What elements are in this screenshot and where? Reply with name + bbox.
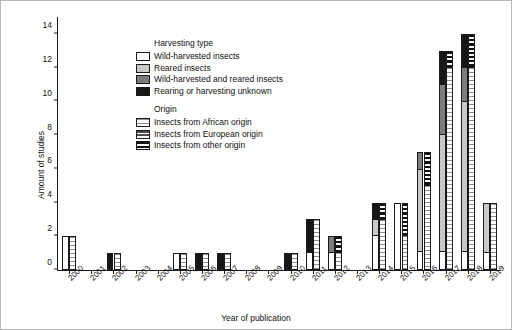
- bar-segment: [462, 102, 467, 253]
- bar-origin: [379, 203, 386, 270]
- bar-origin: [114, 253, 121, 270]
- legend-group-harvesting-type: Harvesting type Wild-harvested insects R…: [136, 39, 283, 97]
- bar-segment: [292, 254, 297, 269]
- legend: Harvesting type Wild-harvested insects R…: [136, 39, 283, 151]
- bar-harvesting-type: [328, 236, 335, 270]
- bar-segment: [70, 237, 75, 269]
- bar-segment: [440, 252, 445, 269]
- legend-label-wild-harvested-and-reared-insects: Wild-harvested and reared insects: [154, 75, 283, 84]
- bar-segment: [373, 220, 378, 236]
- bar-origin: [202, 253, 209, 270]
- bar-harvesting-type: [107, 253, 114, 270]
- bar-segment: [447, 68, 452, 269]
- y-tick-mark: [54, 167, 58, 168]
- bar-segment: [440, 135, 445, 252]
- bar-segment: [285, 254, 290, 269]
- bar-segment: [418, 252, 423, 269]
- y-tick-mark: [54, 100, 58, 101]
- y-tick-label: 14: [43, 21, 58, 30]
- bar-origin: [446, 51, 453, 270]
- bar-segment: [225, 254, 230, 269]
- legend-label-insects-from-african-origin: Insects from African origin: [154, 118, 252, 127]
- x-tick-label: 2013: [355, 264, 373, 282]
- legend-swatch-european-hatch-icon: [136, 130, 150, 139]
- legend-item-wild-harvested-and-reared-insects: Wild-harvested and reared insects: [136, 74, 283, 86]
- y-tick-label: 4: [47, 190, 58, 199]
- legend-label-insects-from-european-origin: Insects from European origin: [154, 130, 263, 139]
- bar-origin: [291, 253, 298, 270]
- legend-label-rearing-or-harvesting-unknown: Rearing or harvesting unknown: [154, 87, 272, 96]
- x-tick-label: 2003: [134, 264, 152, 282]
- bar-segment: [425, 186, 430, 269]
- bar-segment: [307, 220, 312, 252]
- bar-segment: [336, 237, 341, 253]
- y-tick-label: 6: [47, 156, 58, 165]
- y-tick-label: 10: [43, 89, 58, 98]
- plot-area: 02468101214 2000200120022003200420052006…: [57, 17, 501, 271]
- bar-segment: [307, 253, 312, 269]
- legend-item-rearing-or-harvesting-unknown: Rearing or harvesting unknown: [136, 85, 283, 97]
- x-tick-label: 2009: [266, 264, 284, 282]
- legend-item-insects-from-african-origin: Insects from African origin: [136, 117, 283, 129]
- bar-segment: [196, 254, 201, 269]
- bar-segment: [314, 220, 319, 269]
- bar-segment: [469, 68, 474, 269]
- bar-harvesting-type: [195, 253, 202, 270]
- bar-segment: [462, 68, 467, 101]
- bar-segment: [395, 204, 400, 269]
- bar-harvesting-type: [483, 203, 490, 270]
- bar-segment: [447, 52, 452, 69]
- bar-segment: [462, 35, 467, 68]
- legend-item-wild-harvested-insects: Wild-harvested insects: [136, 51, 283, 63]
- bar-harvesting-type: [417, 152, 424, 270]
- bar-origin: [335, 236, 342, 270]
- legend-item-insects-from-other-origin: Insects from other origin: [136, 140, 283, 152]
- bar-segment: [484, 253, 489, 269]
- legend-label-insects-from-other-origin: Insects from other origin: [154, 141, 245, 150]
- bar-origin: [313, 219, 320, 270]
- bar-segment: [440, 52, 445, 85]
- bar-origin: [490, 203, 497, 270]
- y-tick-mark: [54, 32, 58, 33]
- bar-segment: [373, 204, 378, 220]
- bar-segment: [469, 35, 474, 68]
- legend-swatch-black-icon: [136, 87, 150, 96]
- bar-segment: [218, 254, 223, 269]
- y-tick-mark: [54, 134, 58, 135]
- bar-segment: [380, 220, 385, 269]
- y-tick-mark: [54, 201, 58, 202]
- legend-item-reared-insects: Reared insects: [136, 62, 283, 74]
- bar-harvesting-type: [284, 253, 291, 270]
- bar-origin: [224, 253, 231, 270]
- bar-segment: [108, 254, 113, 269]
- y-tick-label: 2: [47, 224, 58, 233]
- bar-segment: [336, 253, 341, 269]
- y-tick-label: 8: [47, 122, 58, 131]
- legend-swatch-dark-gray-icon: [136, 75, 150, 84]
- bar-harvesting-type: [173, 253, 180, 270]
- bar-harvesting-type: [62, 236, 69, 270]
- legend-label-wild-harvested-insects: Wild-harvested insects: [154, 52, 240, 61]
- bar-origin: [468, 34, 475, 270]
- bar-segment: [329, 253, 334, 269]
- y-tick-mark: [54, 235, 58, 236]
- bar-origin: [424, 152, 431, 270]
- bar-segment: [174, 254, 179, 269]
- bar-segment: [484, 204, 489, 253]
- bar-harvesting-type: [372, 203, 379, 270]
- figure: Amount of studies 02468101214 2000200120…: [0, 0, 512, 330]
- bar-harvesting-type: [306, 219, 313, 270]
- bar-harvesting-type: [461, 34, 468, 270]
- y-tick-mark: [54, 66, 58, 67]
- y-tick-mark: [54, 269, 58, 270]
- legend-group-origin: Origin Insects from African origin Insec…: [136, 105, 283, 151]
- bar-segment: [418, 170, 423, 253]
- bar-segment: [425, 153, 430, 186]
- bar-segment: [373, 236, 378, 269]
- legend-swatch-light-gray-icon: [136, 64, 150, 73]
- legend-swatch-african-hatch-icon: [136, 118, 150, 127]
- x-tick-label: 2001: [89, 264, 107, 282]
- bar-harvesting-type: [439, 51, 446, 270]
- bar-segment: [380, 204, 385, 220]
- bar-harvesting-type: [394, 203, 401, 270]
